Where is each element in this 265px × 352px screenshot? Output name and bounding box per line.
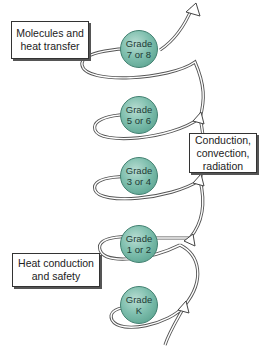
grade-label: Grade — [126, 104, 152, 115]
callout-text: radiation — [203, 160, 243, 172]
grade-node-7-8: Grade 7 or 8 — [120, 30, 158, 68]
grade-value: 1 or 2 — [127, 244, 151, 255]
callout-conduction-convection-radiation: Conduction,convection,radiation — [189, 133, 257, 173]
callout-text: convection, — [196, 147, 249, 159]
grade-value: 5 or 6 — [127, 115, 151, 126]
grade-node-k: Grade K — [120, 286, 158, 324]
grade-node-1-2: Grade 1 or 2 — [120, 225, 158, 263]
grade-value: 7 or 8 — [127, 49, 151, 60]
arrowhead-icon — [184, 234, 195, 246]
callout-molecules-heat-transfer: Molecules andheat transfer — [11, 21, 89, 59]
grade-value: K — [136, 305, 142, 316]
callout-text: Heat conduction — [18, 257, 94, 269]
callout-text: heat transfer — [21, 40, 80, 52]
grade-node-5-6: Grade 5 or 6 — [120, 96, 158, 134]
callout-heat-conduction-safety: Heat conductionand safety — [12, 253, 100, 287]
callout-text: Conduction, — [195, 134, 251, 146]
grade-label: Grade — [126, 233, 152, 244]
grade-value: 3 or 4 — [127, 176, 151, 187]
callout-text: Molecules and — [16, 27, 84, 39]
grade-node-3-4: Grade 3 or 4 — [120, 157, 158, 195]
grade-label: Grade — [126, 165, 152, 176]
callout-text: and safety — [32, 270, 80, 282]
grade-label: Grade — [126, 38, 152, 49]
grade-label: Grade — [126, 294, 152, 305]
